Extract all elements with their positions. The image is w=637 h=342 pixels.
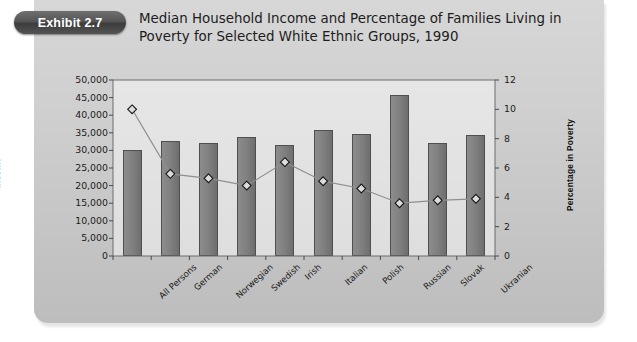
chart-container: Income Percentage in Poverty 05,00010,00… (0, 0, 637, 342)
x-axis-category-label: Norwegian (233, 262, 274, 300)
x-axis-category-label: Polish (381, 262, 406, 286)
y-axis-right-tick: 8 (504, 133, 530, 144)
y-axis-left-tick: 40,000 (67, 109, 108, 120)
bar (466, 135, 485, 256)
y-axis-right-tick: 2 (504, 221, 530, 232)
y-axis-left-tick: 0 (67, 250, 108, 261)
x-axis-category-label: Ukranian (499, 262, 534, 295)
y-axis-left-tick: 30,000 (67, 144, 108, 155)
y-axis-left-tick: 50,000 (67, 74, 108, 85)
y-axis-left-title: Income (0, 158, 2, 189)
y-axis-left-tick: 35,000 (67, 127, 108, 138)
exhibit-figure: Exhibit 2.7 Median Household Income and … (0, 0, 637, 342)
y-axis-left-tick: 5,000 (67, 232, 108, 243)
y-axis-left-tick: 10,000 (67, 215, 108, 226)
x-axis-category-label: Italian (343, 262, 370, 287)
y-axis-left-tick: 25,000 (67, 162, 108, 173)
x-axis-category-label: Swedish (269, 262, 302, 293)
bar (352, 134, 371, 256)
y-axis-right-title: Percentage in Poverty (565, 119, 575, 211)
y-axis-left-tick: 45,000 (67, 92, 108, 103)
bar (428, 143, 447, 256)
y-axis-right-tick: 10 (504, 103, 530, 114)
bar (161, 141, 180, 256)
y-axis-left-tick: 15,000 (67, 197, 108, 208)
y-axis-right-tick: 0 (504, 250, 530, 261)
y-axis-right-tick: 6 (504, 162, 530, 173)
bar (199, 143, 218, 256)
bar (123, 150, 142, 256)
bar (275, 145, 294, 256)
x-axis-category-label: All Persons (157, 262, 198, 301)
x-axis-category-label: Russian (421, 262, 452, 292)
x-axis-category-label: Slovak (458, 262, 486, 288)
y-axis-right-tick: 4 (504, 191, 530, 202)
bar (390, 95, 409, 256)
y-axis-left-tick: 20,000 (67, 180, 108, 191)
x-axis-category-label: Irish (303, 262, 323, 282)
bar (314, 130, 333, 256)
bar (237, 137, 256, 256)
y-axis-right-tick: 12 (504, 74, 530, 85)
